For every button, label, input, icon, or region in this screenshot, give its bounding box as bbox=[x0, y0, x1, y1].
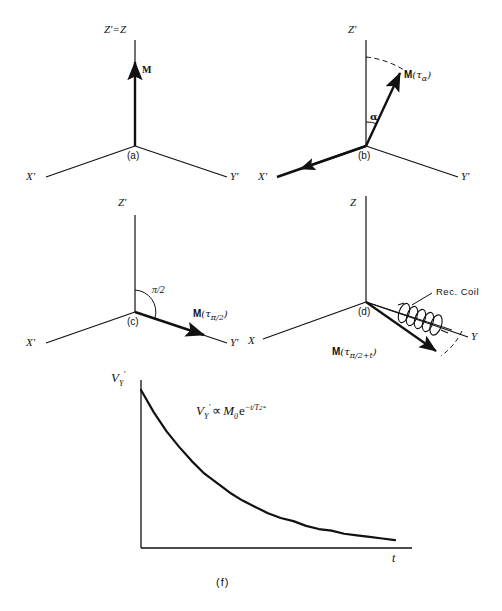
nmr-magnetization-figure: Z'=Z M X' Y' (a) Z' M(τα) α X' Y' (b) Z'… bbox=[0, 0, 502, 611]
panel-c-m-close: ) bbox=[224, 308, 228, 319]
panel-c-x-axis-label: X' bbox=[26, 336, 35, 348]
panel-c-y-axis-label: Y' bbox=[230, 336, 238, 348]
panel-c-m-sub: π/2 bbox=[211, 313, 224, 322]
panel-d-magnetization-label: M(τπ/2+t) bbox=[332, 345, 377, 360]
panel-c-m-arg: (τ bbox=[201, 308, 210, 319]
formula-v-sub: Y bbox=[204, 412, 208, 421]
panel-b-b1-field-arrow bbox=[300, 146, 366, 169]
panel-f-x-axis-label: t bbox=[392, 551, 395, 566]
panel-d-y-axis-label: Y bbox=[471, 330, 477, 342]
panel-c-x-axis bbox=[46, 312, 135, 343]
panel-d-graphics bbox=[263, 196, 468, 356]
panel-f-v-subscript: Y bbox=[119, 379, 123, 388]
panel-b-magnetization-label: M(τα) bbox=[404, 68, 431, 83]
formula-v: V bbox=[196, 403, 204, 418]
panel-d-magnetization-vector bbox=[366, 302, 436, 351]
panel-f-decay-curve bbox=[141, 390, 395, 540]
panel-b-y-axis bbox=[366, 146, 458, 177]
panel-b-caption: (b) bbox=[358, 150, 370, 161]
panel-d-x-axis-label: X bbox=[248, 334, 255, 346]
panel-f-caption: (f) bbox=[216, 576, 229, 588]
panel-b-z-axis-label: Z' bbox=[348, 23, 356, 35]
panel-d-coil-leader-line bbox=[412, 293, 432, 305]
panel-c-z-axis-label: Z' bbox=[118, 196, 126, 208]
panel-f-y-axis-label: VY' bbox=[111, 370, 125, 388]
formula-exponent-star: * bbox=[263, 404, 267, 412]
panel-c-angle-label: π/2 bbox=[152, 284, 165, 295]
panel-a-caption: (a) bbox=[127, 150, 139, 161]
panel-f-graphics bbox=[141, 380, 412, 548]
panel-b-m-arg: (τ bbox=[412, 69, 421, 80]
panel-a-magnetization-label: M bbox=[142, 64, 151, 75]
panel-b-m-close: ) bbox=[427, 69, 431, 80]
panel-b-dashed-tip-arc bbox=[366, 57, 404, 70]
panel-f-v-prime: ' bbox=[123, 370, 125, 379]
panel-d-x-axis bbox=[263, 302, 366, 339]
panel-c-magnetization-label: M(τπ/2) bbox=[193, 307, 228, 322]
panel-b-x-axis-label: X' bbox=[258, 170, 267, 182]
figure-vector-canvas bbox=[0, 0, 502, 611]
panel-a-y-axis bbox=[135, 146, 227, 177]
formula-m: M bbox=[223, 403, 234, 418]
panel-a-y-axis-label: Y' bbox=[230, 170, 238, 182]
receiver-coil-icon bbox=[396, 302, 448, 337]
panel-a-x-axis bbox=[46, 146, 135, 177]
panel-b-alpha-arc bbox=[366, 122, 377, 124]
panel-b-magnetization-vector bbox=[366, 73, 400, 146]
panel-d-dashed-precession-arc bbox=[441, 331, 462, 356]
panel-f-formula: VY'∝M0e−t/T2* bbox=[196, 403, 266, 421]
panel-d-coil-label: Rec. Coil bbox=[436, 286, 479, 297]
panel-f-v-symbol: V bbox=[111, 370, 119, 385]
panel-c-caption: (c) bbox=[127, 316, 139, 327]
panel-d-caption: (d) bbox=[358, 306, 370, 317]
formula-exponent: −t/T bbox=[245, 403, 259, 412]
panel-b-y-axis-label: Y' bbox=[461, 170, 469, 182]
formula-e: e bbox=[238, 403, 245, 418]
panel-b-alpha-label: α bbox=[370, 111, 378, 122]
panel-d-m-sub: π/2 bbox=[350, 351, 363, 360]
panel-d-z-axis-label: Z bbox=[350, 196, 356, 208]
panel-d-m-arg: (τ bbox=[340, 346, 349, 357]
panel-a-z-axis-label: Z'=Z bbox=[104, 23, 126, 35]
panel-d-m-plus: +t bbox=[363, 351, 373, 360]
panel-d-m-close: ) bbox=[373, 346, 377, 357]
formula-proportional-symbol: ∝ bbox=[210, 403, 223, 418]
panel-a-x-axis-label: X' bbox=[26, 170, 35, 182]
